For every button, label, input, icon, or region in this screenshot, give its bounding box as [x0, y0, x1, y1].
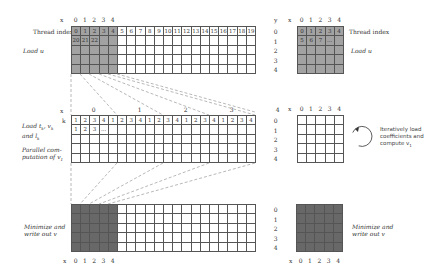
dashed-connectors — [0, 0, 438, 276]
